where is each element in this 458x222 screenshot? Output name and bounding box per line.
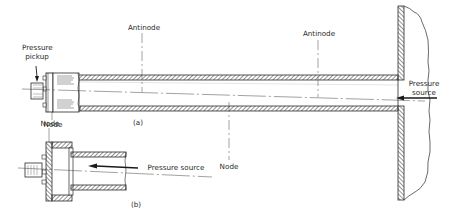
center-line-a xyxy=(22,89,425,101)
end-fitting-a xyxy=(31,73,79,112)
end-flange xyxy=(46,73,53,112)
label-antinode-right: Antinode xyxy=(299,30,339,39)
label-pressure-source-a-line2: source xyxy=(405,89,443,98)
fitting-b xyxy=(25,142,126,201)
label-pressure-pickup-line2: pickup xyxy=(22,53,52,62)
label-pressure-source-a: Pressure source xyxy=(405,80,443,97)
label-node-middle: Node xyxy=(216,163,242,172)
caption-b: (b) xyxy=(128,201,144,210)
wall-plate-upper xyxy=(398,6,404,80)
label-node-b: Node xyxy=(38,120,62,129)
diagram-canvas xyxy=(0,0,458,222)
tube-top-wall xyxy=(78,75,398,80)
tube-a xyxy=(78,75,398,111)
tube-b-bottom xyxy=(71,185,126,190)
tube-b-top xyxy=(71,152,126,157)
pressure-source-arrow-b xyxy=(96,166,138,168)
pickup-b xyxy=(25,163,42,177)
label-pressure-source-b: Pressure source xyxy=(146,164,206,173)
label-pressure-pickup: Pressure pickup xyxy=(22,44,52,61)
wall-plate-lower xyxy=(398,106,404,200)
wall-outline xyxy=(404,6,430,200)
pickup-pointer xyxy=(36,66,37,77)
flange-plate xyxy=(46,142,52,201)
caption-a: (a) xyxy=(130,119,146,128)
tube-bottom-wall xyxy=(80,106,398,111)
pressure-pickup-device xyxy=(31,83,43,99)
label-antinode-left: Antinode xyxy=(124,24,164,33)
